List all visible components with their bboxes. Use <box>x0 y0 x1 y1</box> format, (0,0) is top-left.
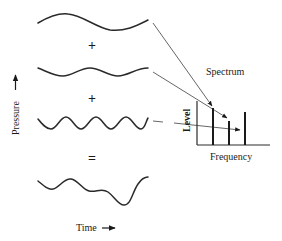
sound-spectrum-diagram: + + = Time Pressure Spectrum Level Frequ… <box>0 0 282 241</box>
arrow-component-1-to-bar-1 <box>153 23 212 106</box>
pressure-axis-label: Pressure <box>10 101 21 135</box>
waveform-component-3 <box>38 117 148 129</box>
waveform-component-1 <box>38 14 148 31</box>
plus-sign-2: + <box>88 91 96 106</box>
pressure-axis-label-group: Pressure <box>10 75 21 135</box>
spectrum-x-label: Frequency <box>210 151 252 162</box>
arrow-component-3-segment <box>153 121 163 122</box>
spectrum-y-label: Level <box>181 108 192 132</box>
equals-sign: = <box>88 151 96 166</box>
waveform-sum <box>38 177 148 205</box>
spectrum-title: Spectrum <box>206 66 245 77</box>
time-axis-label: Time <box>76 222 97 233</box>
waveform-component-2 <box>38 68 148 76</box>
plus-sign-1: + <box>88 38 96 53</box>
